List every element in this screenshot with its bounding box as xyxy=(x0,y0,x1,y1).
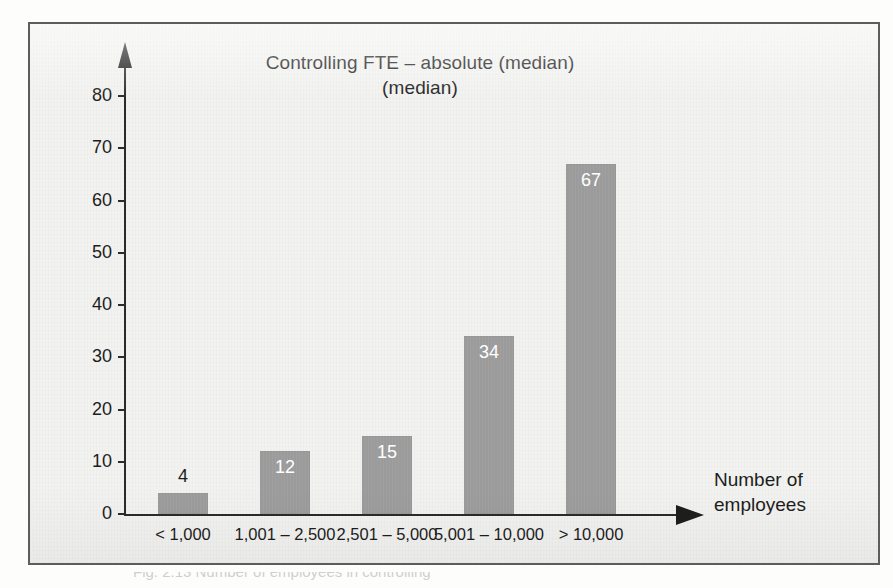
figure-frame: Controlling FTE – absolute (median) (med… xyxy=(28,22,880,565)
chart-title-line-2: (median) xyxy=(210,75,630,100)
bar-value-label: 15 xyxy=(352,443,422,461)
bar[interactable] xyxy=(464,336,514,514)
y-axis-tick-label: 80 xyxy=(46,86,112,104)
y-axis-tick-label-text: 20 xyxy=(56,400,112,418)
y-axis-tick xyxy=(118,252,125,254)
x-axis-line xyxy=(124,514,680,516)
y-axis-tick-label: 20 xyxy=(46,400,112,418)
y-axis-tick-label-text: 60 xyxy=(56,191,112,209)
y-axis-tick-label-text: 70 xyxy=(56,138,112,156)
bar-chart-plot: Controlling FTE – absolute (median) (med… xyxy=(30,24,878,563)
y-axis-tick-label: 60 xyxy=(46,191,112,209)
bar-value-label: 67 xyxy=(556,171,626,189)
y-axis-tick xyxy=(118,304,125,306)
y-axis-tick-label: 30 xyxy=(46,347,112,365)
y-axis-line xyxy=(124,59,126,515)
y-axis-tick-label: 0 xyxy=(46,504,112,522)
figure-caption: Fig. 2.13 Number of employees in control… xyxy=(133,572,431,580)
y-axis-tick xyxy=(118,356,125,358)
bar[interactable] xyxy=(158,493,208,514)
y-axis-tick-label: 50 xyxy=(46,243,112,261)
chart-title-line-1: Controlling FTE – absolute (median) xyxy=(210,50,630,75)
y-axis-tick-label: 40 xyxy=(46,295,112,313)
y-axis-arrow-icon xyxy=(118,42,132,68)
y-axis-tick xyxy=(118,409,125,411)
y-axis-tick-label-text: 10 xyxy=(56,452,112,470)
y-axis-tick-label-text: 40 xyxy=(56,295,112,313)
x-axis-category-label: > 10,000 xyxy=(521,524,661,544)
y-axis-tick-label-text: 50 xyxy=(56,243,112,261)
x-axis-title-line-1: Number of xyxy=(714,467,864,492)
y-axis-tick xyxy=(118,147,125,149)
y-axis-tick-label-text: 30 xyxy=(56,347,112,365)
bar[interactable] xyxy=(566,164,616,514)
bar-value-label: 4 xyxy=(148,467,218,485)
bar-value-label: 12 xyxy=(250,458,320,476)
y-axis-tick-label: 70 xyxy=(46,138,112,156)
x-axis-arrow-icon xyxy=(676,505,704,525)
y-axis-tick xyxy=(118,513,125,515)
y-axis-tick xyxy=(118,95,125,97)
y-axis-tick-label-text: 0 xyxy=(56,504,112,522)
x-axis-title-line-2: employees xyxy=(714,492,864,517)
figure-caption-strip: Fig. 2.13 Number of employees in control… xyxy=(28,572,880,588)
y-axis-tick-label-text: 80 xyxy=(56,86,112,104)
bar-texture xyxy=(158,493,208,514)
bar-value-label: 34 xyxy=(454,343,524,361)
chart-title: Controlling FTE – absolute (median) (med… xyxy=(210,50,630,100)
y-axis-tick xyxy=(118,200,125,202)
bar-texture xyxy=(464,336,514,514)
y-axis-tick-label: 10 xyxy=(46,452,112,470)
y-axis-tick xyxy=(118,461,125,463)
x-axis-title: Number of employees xyxy=(714,467,864,517)
bar-texture xyxy=(566,164,616,514)
page-background: Controlling FTE – absolute (median) (med… xyxy=(0,0,893,588)
